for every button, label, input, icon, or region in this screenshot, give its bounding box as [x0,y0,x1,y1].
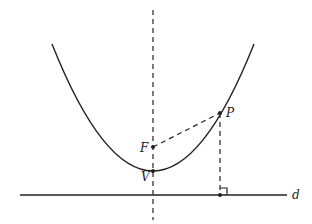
parabola-diagram: F V P d [0,0,312,224]
point-p [218,111,222,115]
foot-point [218,193,222,197]
diagram-canvas: F V P d [0,0,312,224]
parabola-curve [52,44,254,171]
focus-point [151,145,155,149]
vertex-label: V [141,170,151,184]
point-label: P [225,106,235,120]
vertex-point [151,169,155,173]
directrix-label: d [292,188,300,202]
focus-label: F [139,141,149,155]
